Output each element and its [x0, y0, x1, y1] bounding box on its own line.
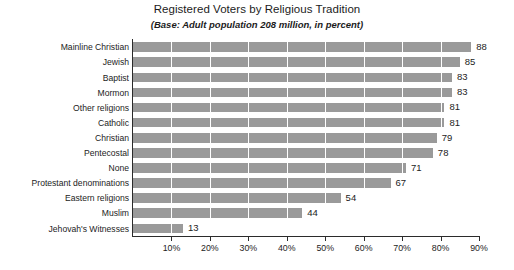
- bar-value-label: 83: [457, 71, 468, 82]
- category-label: Jehovah's Witnesses: [1, 224, 129, 234]
- bar[interactable]: [133, 88, 452, 98]
- plot-area: 88858383818179787167544413: [133, 39, 479, 236]
- bar[interactable]: [133, 133, 437, 143]
- category-label: Pentecostal: [1, 148, 129, 158]
- x-axis-tick: [441, 237, 442, 241]
- bar[interactable]: [133, 42, 471, 52]
- bar-value-label: 83: [457, 86, 468, 97]
- bar-row[interactable]: 67: [133, 176, 479, 191]
- x-axis-tick-label: 40%: [278, 243, 296, 253]
- bar-value-label: 71: [411, 162, 422, 173]
- x-axis-tick-label: 60%: [355, 243, 373, 253]
- category-axis-labels: Mainline ChristianJewishBaptistMormonOth…: [0, 39, 129, 236]
- chart-subtitle: (Base: Adult population 208 million, in …: [0, 19, 514, 30]
- gridline: [171, 39, 172, 236]
- x-axis-tick-label: 70%: [393, 243, 411, 253]
- chart-title: Registered Voters by Religious Tradition: [0, 3, 514, 15]
- gridline: [479, 39, 480, 236]
- bar-value-label: 81: [449, 117, 460, 128]
- category-label: None: [1, 163, 129, 173]
- bar-row[interactable]: 78: [133, 146, 479, 161]
- category-label: Mormon: [1, 88, 129, 98]
- bar-value-label: 44: [307, 207, 318, 218]
- x-axis-tick-label: 50%: [316, 243, 334, 253]
- x-axis-scale: 10%20%30%40%50%60%70%80%90%: [133, 237, 481, 259]
- bar[interactable]: [133, 118, 444, 128]
- bar[interactable]: [133, 103, 444, 113]
- x-axis-tick-label: 10%: [163, 243, 181, 253]
- bar[interactable]: [133, 224, 183, 234]
- category-label: Jewish: [1, 57, 129, 67]
- gridline: [287, 39, 288, 236]
- bar-row[interactable]: 13: [133, 221, 479, 236]
- x-axis-tick: [364, 237, 365, 241]
- bar-row[interactable]: 83: [133, 70, 479, 85]
- category-label: Other religions: [1, 103, 129, 113]
- x-axis-tick-label: 90%: [470, 243, 488, 253]
- bar-row[interactable]: 88: [133, 40, 479, 55]
- bar-value-label: 81: [449, 101, 460, 112]
- gridline: [402, 39, 403, 236]
- chart-page: Registered Voters by Religious Tradition…: [0, 0, 514, 270]
- bar-row[interactable]: 79: [133, 131, 479, 146]
- bar-value-label: 88: [476, 41, 487, 52]
- x-axis-tick: [325, 237, 326, 241]
- category-label: Christian: [1, 133, 129, 143]
- x-axis-tick: [479, 237, 480, 241]
- gridline: [325, 39, 326, 236]
- bar[interactable]: [133, 193, 341, 203]
- bar[interactable]: [133, 148, 433, 158]
- category-label: Mainline Christian: [1, 42, 129, 52]
- bar-value-label: 85: [465, 56, 476, 67]
- x-axis-tick: [402, 237, 403, 241]
- bar[interactable]: [133, 208, 302, 218]
- category-label: Baptist: [1, 73, 129, 83]
- x-axis-tick: [287, 237, 288, 241]
- bar-row[interactable]: 83: [133, 85, 479, 100]
- gridline: [364, 39, 365, 236]
- bar-row[interactable]: 81: [133, 100, 479, 115]
- bar-row[interactable]: 54: [133, 191, 479, 206]
- x-axis-tick: [248, 237, 249, 241]
- bar[interactable]: [133, 73, 452, 83]
- bar-value-label: 54: [346, 192, 357, 203]
- x-axis-tick-label: 80%: [432, 243, 450, 253]
- bar-value-label: 79: [442, 132, 453, 143]
- bar-value-label: 78: [438, 147, 449, 158]
- bar-row[interactable]: 85: [133, 55, 479, 70]
- gridline: [248, 39, 249, 236]
- bar[interactable]: [133, 163, 406, 173]
- x-axis-tick: [171, 237, 172, 241]
- category-label: Protestant denominations: [1, 178, 129, 188]
- bar-value-label: 67: [396, 177, 407, 188]
- bar[interactable]: [133, 57, 460, 67]
- category-label: Eastern religions: [1, 193, 129, 203]
- bar-row[interactable]: 81: [133, 116, 479, 131]
- bar-row[interactable]: 44: [133, 206, 479, 221]
- x-axis-tick: [210, 237, 211, 241]
- category-label: Catholic: [1, 118, 129, 128]
- x-axis-tick-label: 20%: [201, 243, 219, 253]
- category-label: Muslim: [1, 208, 129, 218]
- bar-value-label: 13: [188, 222, 199, 233]
- x-axis-tick-label: 30%: [240, 243, 258, 253]
- gridline: [210, 39, 211, 236]
- bar-row[interactable]: 71: [133, 161, 479, 176]
